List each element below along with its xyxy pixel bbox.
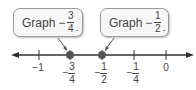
numerator: 3 xyxy=(69,62,75,72)
fraction: 3 4 xyxy=(67,11,74,34)
fraction: 14 xyxy=(132,62,139,85)
denominator: 4 xyxy=(69,75,75,85)
numerator: 3 xyxy=(68,11,74,21)
right-arrow-icon xyxy=(186,52,194,58)
denominator: 2 xyxy=(155,24,161,34)
fraction: 12 xyxy=(100,62,107,85)
tick-label-neg-1: −1 xyxy=(28,62,48,73)
numerator: 1 xyxy=(133,62,139,72)
callout-graph-neg-3-4: Graph − 3 4 . xyxy=(13,8,83,37)
point-neg-1-2 xyxy=(98,51,106,59)
minus-sign: − xyxy=(58,16,65,30)
tick-label-neg-1-2: −12 xyxy=(90,62,112,85)
fraction: 1 2 xyxy=(154,11,161,34)
tick-label-0: 0 xyxy=(159,62,173,73)
point-neg-3-4 xyxy=(66,51,74,59)
callout-graph-neg-1-2: Graph − 1 2 . xyxy=(100,8,169,37)
denominator: 2 xyxy=(101,75,107,85)
tick-label-neg-1-4: −14 xyxy=(122,62,144,85)
tick-label-neg-3-4: −34 xyxy=(58,62,80,85)
denominator: 4 xyxy=(133,75,139,85)
period: . xyxy=(75,21,78,33)
callout-text: Graph xyxy=(22,16,55,30)
numerator: 1 xyxy=(155,11,161,21)
left-arrow-icon xyxy=(11,52,19,58)
callout-text: Graph xyxy=(109,16,142,30)
period: . xyxy=(162,21,165,33)
minus-sign: − xyxy=(145,16,152,30)
denominator: 4 xyxy=(68,24,74,34)
fraction: 34 xyxy=(68,62,75,85)
numerator: 1 xyxy=(101,62,107,72)
